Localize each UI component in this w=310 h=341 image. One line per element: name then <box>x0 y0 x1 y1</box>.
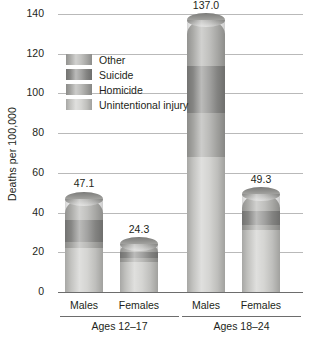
legend-label: Homicide <box>99 84 143 96</box>
legend-swatch <box>66 69 92 80</box>
legend-item[interactable]: Other <box>66 53 188 66</box>
legend-item[interactable]: Suicide <box>66 68 188 81</box>
legend-item[interactable]: Unintentional injury <box>66 98 188 111</box>
bar-top-cap <box>120 237 158 251</box>
bar-top-cap <box>65 192 103 206</box>
bar-3[interactable]: 49.3 <box>242 194 280 292</box>
gridline-80 <box>58 133 303 134</box>
legend-label: Suicide <box>99 69 133 81</box>
y-tick-label: 40 <box>0 206 44 218</box>
x-axis-label: Females <box>107 299 171 311</box>
bar-segment <box>242 230 280 292</box>
bar-segment <box>120 244 158 253</box>
y-tick-label: 100 <box>0 86 44 98</box>
legend-item[interactable]: Homicide <box>66 83 188 96</box>
group-rule <box>60 316 179 317</box>
legend-label: Unintentional injury <box>99 99 188 111</box>
bar-segment <box>242 211 280 225</box>
bar-value-label: 24.3 <box>109 223 169 235</box>
bar-1[interactable]: 24.3 <box>120 244 158 292</box>
bar-top-cap <box>187 13 225 27</box>
bar-segment <box>65 220 103 242</box>
y-tick-label: 20 <box>0 245 44 257</box>
y-tick-label: 80 <box>0 126 44 138</box>
bar-segment <box>187 20 225 66</box>
bar-0[interactable]: 47.1 <box>65 199 103 292</box>
legend-label: Other <box>99 54 125 66</box>
chart-legend: OtherSuicideHomicideUnintentional injury <box>66 53 188 111</box>
bar-value-label: 47.1 <box>54 177 114 189</box>
bar-top-cap <box>242 187 280 201</box>
bar-2[interactable]: 137.0 <box>187 20 225 292</box>
bar-segment <box>187 157 225 292</box>
gridline-0 <box>58 292 303 293</box>
group-label: Ages 12–17 <box>60 320 179 332</box>
y-tick-label: 0 <box>0 285 44 297</box>
y-tick-label: 120 <box>0 47 44 59</box>
bar-segment <box>187 113 225 157</box>
legend-swatch <box>66 54 92 65</box>
chart-container: Deaths per 100,000 47.124.3137.049.3 020… <box>0 0 310 341</box>
bar-value-label: 49.3 <box>231 173 291 185</box>
x-axis-label: Females <box>229 299 293 311</box>
gridline-140 <box>58 14 303 15</box>
bar-segment <box>187 66 225 114</box>
bar-segment <box>242 194 280 210</box>
y-tick-label: 140 <box>0 7 44 19</box>
y-tick-label: 60 <box>0 166 44 178</box>
bar-segment <box>65 248 103 292</box>
bar-segment <box>65 199 103 221</box>
group-rule <box>182 316 301 317</box>
bar-segment <box>120 262 158 292</box>
legend-swatch <box>66 99 92 110</box>
group-label: Ages 18–24 <box>182 320 301 332</box>
bar-value-label: 137.0 <box>176 0 236 11</box>
legend-swatch <box>66 84 92 95</box>
